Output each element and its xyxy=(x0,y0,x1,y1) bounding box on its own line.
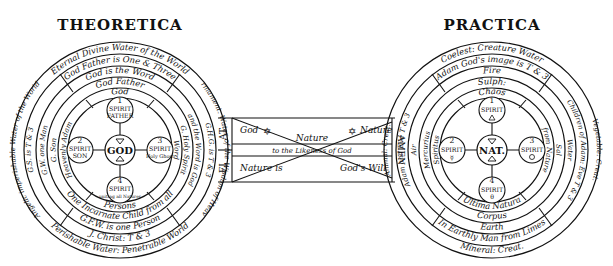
practica-spirit-1: 1 SPIRIT xyxy=(479,96,505,123)
svg-text:1: 1 xyxy=(490,96,495,105)
practica-ring-4-top: Sulph: xyxy=(477,76,507,87)
svg-text:SPIRIT: SPIRIT xyxy=(481,186,504,193)
svg-text:2: 2 xyxy=(78,136,83,145)
svg-text:2: 2 xyxy=(450,136,455,145)
theoretica-spirit-1: 1 SPIRIT FATHER xyxy=(107,96,134,123)
theoretica-spirit-3: 3 SPIRIT Holy Ghost xyxy=(146,136,174,163)
mercury-symbol-icon: ☿ xyxy=(450,154,454,161)
bridge-middle-subtext: to the Likeness of God xyxy=(272,147,352,155)
bridge-middle-text: Nature xyxy=(295,133,328,143)
star-of-david-icon: ✡ xyxy=(263,126,271,137)
bridge: AT FI AMEN God ✡ ✡ Nature Nature to the … xyxy=(218,118,406,182)
star-of-david-icon: ✡ xyxy=(348,126,356,137)
theoretica-ring-2-left: G.S. is T & 3 xyxy=(25,126,36,173)
svg-text:Holy Ghost: Holy Ghost xyxy=(146,153,174,160)
svg-text:GOD: GOD xyxy=(107,145,133,156)
svg-text:SON: SON xyxy=(73,152,88,159)
theoretica-ring-4-left: G. Son xyxy=(49,137,58,162)
practica-spirit-3: 3 SPIRIT xyxy=(519,136,545,163)
alchemical-diagram: THEORETICA PRACTICA AT FI AMEN God ✡ ✡ N… xyxy=(0,0,613,266)
svg-text:4: 4 xyxy=(118,176,123,185)
bridge-bottom-left-text: Nature is xyxy=(239,163,283,173)
bridge-top-left-text: God xyxy=(240,125,259,135)
svg-text:4: 4 xyxy=(490,176,495,185)
practica-ring-3-right: Water xyxy=(565,139,574,162)
practica-center: NAT. xyxy=(477,135,507,165)
practica-ring-2-left: Adam and Eve T & 3 xyxy=(397,111,413,188)
svg-text:uniting all Natures: uniting all Natures xyxy=(99,194,142,199)
svg-text:SPIRIT: SPIRIT xyxy=(441,146,464,153)
title-practica: PRACTICA xyxy=(443,16,540,34)
practica-spirit-2: 2 SPIRIT ☿ xyxy=(439,136,465,163)
svg-text:SPIRIT: SPIRIT xyxy=(521,146,544,153)
practica-ring-3-bottom: Earth xyxy=(479,221,504,232)
theoretica-spirit-2: 2 SPIRIT SON xyxy=(67,136,93,163)
svg-text:1: 1 xyxy=(118,96,123,105)
svg-text:3: 3 xyxy=(158,136,163,145)
theoretica-disc: Eternal Divine Water of the World God Fa… xyxy=(0,0,231,258)
theoretica-ring-3-left: G.W. one Man xyxy=(38,124,50,176)
svg-text:SPIRIT: SPIRIT xyxy=(481,106,504,113)
bridge-bottom-right-text: God's Will xyxy=(340,163,386,173)
theoretica-spirit-4: 4 SPIRIT uniting all Natures xyxy=(99,176,142,203)
practica-ring-4-right: Sal xyxy=(554,144,562,156)
svg-text:SPIRIT: SPIRIT xyxy=(109,185,132,192)
practica-ring-3-top: Fire xyxy=(482,65,502,76)
svg-text:FATHER: FATHER xyxy=(107,112,134,119)
practica-disc: Coelest: Creature Water Adam God's image… xyxy=(381,42,603,258)
practica-ring-1-right: Vegetable: Creat. xyxy=(590,118,603,183)
theta-symbol-icon: θ xyxy=(490,193,494,200)
practica-ring-4-bottom: Corpus xyxy=(476,209,508,221)
svg-text:SPIRIT: SPIRIT xyxy=(149,145,172,152)
practica-spirit-4: 4 SPIRIT θ xyxy=(479,176,505,203)
theoretica-center: GOD xyxy=(105,135,135,165)
svg-text:SPIRIT: SPIRIT xyxy=(69,145,92,152)
svg-text:SPIRIT: SPIRIT xyxy=(109,105,132,112)
practica-ring-3-left: Air xyxy=(410,144,418,157)
svg-text:NAT.: NAT. xyxy=(479,145,505,156)
title-theoretica: THEORETICA xyxy=(57,16,183,34)
svg-text:3: 3 xyxy=(530,136,535,145)
